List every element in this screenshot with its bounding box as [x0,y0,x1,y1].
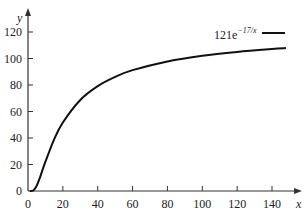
y-tick-label: 100 [4,52,22,66]
chart-canvas: x y 020406080100120140 020406080100120 1… [0,0,306,220]
x-tick-label: 80 [161,197,173,211]
x-tick-label: 0 [25,197,31,211]
x-axis-arrow-icon [294,188,302,194]
data-line [30,48,286,191]
x-tick-label: 40 [92,197,104,211]
x-axis-label: x [295,197,302,211]
axes: x y [16,8,302,211]
legend-exponent: −17/x [237,26,257,35]
x-tick-label: 20 [57,197,69,211]
x-tick-label: 140 [263,197,281,211]
y-tick-label: 0 [16,184,22,198]
y-tick-label: 40 [10,131,22,145]
y-tick-label: 60 [10,105,22,119]
y-tick-label: 20 [10,158,22,172]
legend: 121e−17/x [214,26,285,42]
x-tick-label: 60 [127,197,139,211]
x-ticks: 020406080100120140 [25,186,281,211]
y-ticks: 020406080100120 [4,25,33,198]
legend-base: 121e [214,28,237,42]
y-tick-label: 80 [10,78,22,92]
y-axis-label: y [16,11,23,25]
y-axis-arrow-icon [25,8,31,16]
legend-label: 121e−17/x [214,26,257,42]
x-tick-label: 100 [193,197,211,211]
y-tick-label: 120 [4,25,22,39]
x-tick-label: 120 [228,197,246,211]
